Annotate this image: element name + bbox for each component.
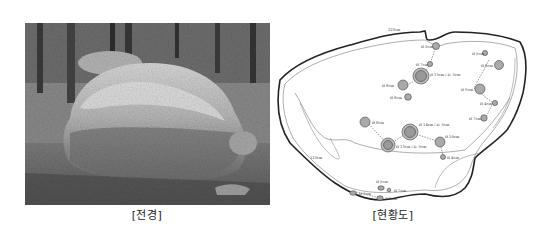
boulder-photo xyxy=(25,23,270,205)
cupmark-diagram: 223cm 113cm Ø 5cm Ø 7cm Ø 15cm / D. 5cm … xyxy=(275,18,533,206)
cupmark-label: Ø 5cm xyxy=(472,52,484,56)
cupmark-label: Ø 4cm xyxy=(447,156,459,160)
diagram-caption: [현황도] xyxy=(333,206,453,222)
cupmark-label: Ø 7cm xyxy=(469,117,481,121)
photo-caption: [전경] xyxy=(87,206,207,222)
cupmark-label: Ø 9cm xyxy=(461,88,473,92)
cupmark-label: Ø 9cm xyxy=(385,197,397,201)
cupmark-label: Ø 7cm xyxy=(416,63,428,67)
cupmark-label: Ø 13cm / D. 5cm xyxy=(396,145,427,149)
cupmark-label: Ø 5cm xyxy=(421,45,433,49)
cupmark-label: Ø 8cm xyxy=(372,121,384,125)
cupmark-label: Ø 8cm xyxy=(382,84,394,88)
top-dimension-label: 223cm xyxy=(388,28,401,32)
cupmark-label: Ø 14cm / D. 5cm xyxy=(419,123,450,127)
cupmark-label: Ø 8cm xyxy=(481,64,493,68)
cupmark-label: Ø 8cm xyxy=(390,96,402,100)
cupmark-label: Ø 7cm xyxy=(394,189,406,193)
cupmark-label: Ø 5cm xyxy=(376,180,388,184)
left-dimension-label: 113cm xyxy=(310,156,323,160)
cupmark-label: Ø 5cm xyxy=(359,192,371,196)
cupmark-label: Ø 4cm xyxy=(480,102,492,106)
cupmark-label: Ø 10cm xyxy=(445,135,460,139)
cupmark-label: Ø 15cm / D. 5cm xyxy=(430,73,461,77)
